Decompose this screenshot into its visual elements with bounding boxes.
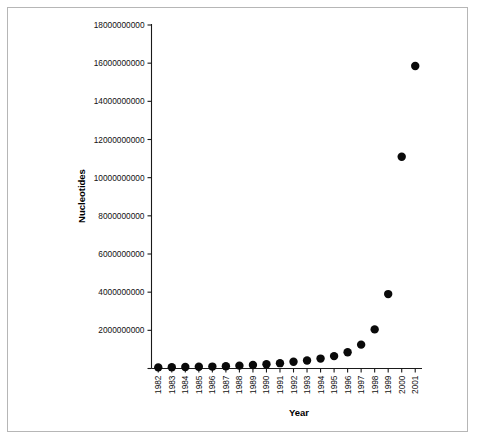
data-point (195, 363, 203, 371)
x-axis-tick-label: 1986 (207, 375, 217, 394)
x-axis-tick-label: 1984 (180, 375, 190, 394)
x-axis-tick-label: 1996 (343, 375, 353, 394)
x-axis-tick-label: 1982 (153, 375, 163, 394)
chart-svg: 2000000000400000000060000000008000000000… (0, 0, 477, 440)
y-axis-tick-label: 6000000000 (98, 249, 145, 259)
x-axis-tick-label: 2000 (397, 375, 407, 394)
y-axis-tick-labels: 2000000000400000000060000000008000000000… (94, 20, 145, 335)
data-point (181, 363, 189, 371)
data-point (384, 290, 392, 298)
data-point (398, 152, 406, 160)
x-axis-tick-label: 1999 (383, 375, 393, 394)
y-axis-ticks (148, 25, 152, 369)
x-axis: 1982198319841985198619871988198919901991… (152, 369, 423, 394)
x-axis-tick-labels: 1982198319841985198619871988198919901991… (153, 375, 420, 394)
x-axis-tick-label: 1989 (248, 375, 258, 394)
data-point (316, 354, 324, 362)
data-point (343, 348, 351, 356)
x-axis-tick-label: 1995 (329, 375, 339, 394)
data-points (154, 62, 419, 372)
x-axis-title: Year (289, 407, 309, 418)
data-point (411, 62, 419, 70)
x-axis-tick-label: 1992 (289, 375, 299, 394)
data-point (330, 352, 338, 360)
data-point (370, 325, 378, 333)
data-point (222, 362, 230, 370)
x-axis-tick-label: 1983 (167, 375, 177, 394)
data-point (289, 358, 297, 366)
y-axis: 2000000000400000000060000000008000000000… (94, 20, 152, 369)
figure-canvas: 2000000000400000000060000000008000000000… (0, 0, 477, 440)
y-axis-title: Nucleotides (76, 169, 87, 223)
x-axis-tick-label: 1997 (356, 375, 366, 394)
y-axis-tick-label: 4000000000 (98, 287, 145, 297)
data-point (208, 362, 216, 370)
x-axis-tick-label: 1998 (370, 375, 380, 394)
data-point (154, 363, 162, 371)
y-axis-tick-label: 2000000000 (98, 325, 145, 335)
data-point (262, 360, 270, 368)
y-axis-tick-label: 14000000000 (94, 96, 145, 106)
y-axis-tick-label: 18000000000 (94, 20, 145, 30)
y-axis-tick-label: 8000000000 (98, 211, 145, 221)
y-axis-tick-label: 10000000000 (94, 173, 145, 183)
data-point (235, 361, 243, 369)
y-axis-tick-label: 16000000000 (94, 58, 145, 68)
y-axis-tick-label: 12000000000 (94, 135, 145, 145)
x-axis-tick-label: 1985 (194, 375, 204, 394)
data-point (276, 359, 284, 367)
x-axis-tick-label: 1990 (261, 375, 271, 394)
x-axis-tick-label: 1988 (234, 375, 244, 394)
x-axis-tick-label: 1991 (275, 375, 285, 394)
x-axis-tick-label: 1993 (302, 375, 312, 394)
x-axis-tick-label: 1994 (316, 375, 326, 394)
scatter-chart: 2000000000400000000060000000008000000000… (0, 0, 477, 440)
data-point (168, 363, 176, 371)
x-axis-tick-label: 2001 (410, 375, 420, 394)
x-axis-tick-label: 1987 (221, 375, 231, 394)
data-point (249, 361, 257, 369)
data-point (303, 356, 311, 364)
data-point (357, 340, 365, 348)
